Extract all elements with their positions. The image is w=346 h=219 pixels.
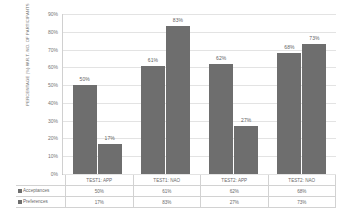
table-row: Acceptances 50% 61% 62% 68% [16,186,336,197]
bar-acceptances[interactable]: 50% [73,85,97,174]
bar-value-label: 62% [216,55,226,61]
table-cell: 17% [66,197,134,208]
y-tick-label: 80% [48,29,58,35]
table-column-header: TEST1: APP [66,175,134,186]
bar-group: 62% 27% [200,14,268,174]
bar-acceptances[interactable]: 68% [277,53,301,174]
table-cell: 50% [66,186,134,197]
table-cell: 62% [201,186,269,197]
bar-preferences[interactable]: 27% [234,126,258,174]
y-tick-label: 10% [48,153,58,159]
table-column-header: TEST2: NAO [268,175,336,186]
y-tick-label: 50% [48,82,58,88]
table-cell: 27% [201,197,269,208]
y-axis-tick-labels: 90% 80% 70% 60% 50% 40% 30% 20% 10% 0% [36,14,60,175]
y-tick-label: 30% [48,118,58,124]
bar-value-label: 50% [80,76,90,82]
table-row: Preferences 17% 83% 27% 73% [16,197,336,208]
legend-label: Preferences [23,200,48,205]
bar-value-label: 27% [241,117,251,123]
bar-value-label: 68% [284,44,294,50]
table-cell: 83% [133,197,201,208]
legend-swatch-icon [18,189,22,193]
bar-value-label: 73% [309,35,319,41]
bar-value-label: 17% [105,135,115,141]
bar-acceptances[interactable]: 62% [209,64,233,174]
data-table: TEST1: APP TEST1: NAO TEST2: APP TEST2: … [16,175,336,208]
bar-acceptances[interactable]: 61% [141,66,165,174]
table-header-row: TEST1: APP TEST1: NAO TEST2: APP TEST2: … [16,175,336,186]
bar-group: 61% 83% [131,14,199,174]
plot-area: 50% 17% 61% 83% [62,14,336,175]
legend-item-preferences: Preferences [16,197,66,208]
bar-value-label: 83% [173,17,183,23]
y-axis-title: PERCENTAGE (%) W.R.T. NO. OF PARTICIPANT… [25,0,30,130]
table-cell: 68% [268,186,336,197]
y-tick-label: 90% [48,11,58,17]
bar-preferences[interactable]: 83% [166,26,190,174]
bar-preferences[interactable]: 17% [98,144,122,174]
y-tick-label: 70% [48,47,58,53]
table-column-header: TEST1: NAO [133,175,201,186]
legend-item-acceptances: Acceptances [16,186,66,197]
bar-value-label: 61% [148,57,158,63]
y-tick-label: 60% [48,64,58,70]
legend-label: Acceptances [23,189,49,194]
bar-group: 68% 73% [268,14,336,174]
table-corner-cell [16,175,66,186]
table-column-header: TEST2: APP [201,175,269,186]
y-tick-label: 40% [48,100,58,106]
bar-chart-figure: PERCENTAGE (%) W.R.T. NO. OF PARTICIPANT… [0,0,346,219]
bar-preferences[interactable]: 73% [302,44,326,174]
bar-groups: 50% 17% 61% 83% [63,14,336,174]
bar-group: 50% 17% [63,14,131,174]
table-cell: 61% [133,186,201,197]
legend-swatch-icon [18,200,22,204]
table-cell: 73% [268,197,336,208]
y-tick-label: 20% [48,135,58,141]
